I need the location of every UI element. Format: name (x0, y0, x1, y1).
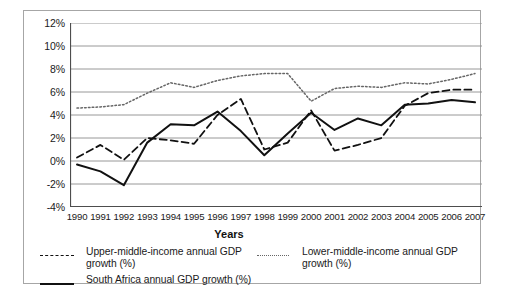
dotted-line-swatch (254, 250, 292, 262)
legend-item-lower-middle-income: Lower-middle-income annual GDP growth (%… (254, 246, 464, 271)
y-axis-tick-label: 12% (31, 18, 65, 28)
legend-item-upper-middle-income: Upper-middle-income annual GDP growth (%… (38, 246, 268, 271)
y-axis-tick-label: 0% (31, 156, 65, 166)
y-axis-tick-label: 4% (31, 110, 65, 120)
series-line-3 (77, 100, 475, 185)
legend-item-south-africa: South Africa annual GDP growth (%) (38, 274, 288, 286)
y-axis-tick-label: 8% (31, 64, 65, 74)
line-chart-svg (70, 23, 482, 207)
legend-item-label: South Africa annual GDP growth (%) (86, 274, 251, 286)
y-axis-tick-label: 2% (31, 133, 65, 143)
y-axis-tick-label: 6% (31, 87, 65, 97)
chart-figure: 12%10%8%6%4%2%0%-2%-4% 19901991199219931… (0, 0, 505, 294)
y-axis-tick-label: -2% (31, 179, 65, 189)
x-axis-title: Years (0, 228, 458, 240)
x-axis-tick-label: 2007 (459, 211, 491, 222)
plot-area (70, 23, 482, 207)
dashed-line-swatch (38, 250, 76, 262)
series-line-2 (77, 74, 475, 109)
chart-legend: Upper-middle-income annual GDP growth (%… (24, 246, 458, 286)
series-line-1 (77, 90, 475, 160)
x-axis-tick-labels: 1990199119921993199419951996199719981999… (70, 211, 482, 227)
y-axis-tick-label: 10% (31, 41, 65, 51)
y-axis-tick-label: -4% (31, 202, 65, 212)
legend-item-label: Lower-middle-income annual GDP growth (%… (302, 246, 464, 271)
solid-line-swatch (38, 278, 76, 290)
legend-item-label: Upper-middle-income annual GDP growth (%… (86, 246, 268, 271)
